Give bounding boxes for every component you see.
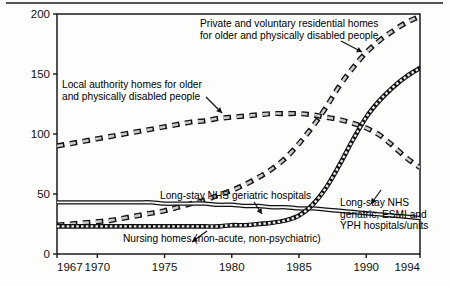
annotation-long-stay-geriatric: Long-stay NHS geriatric hospitals bbox=[160, 190, 311, 202]
annotation-line: Long-stay NHS bbox=[340, 197, 428, 209]
x-tick-label: 1985 bbox=[286, 261, 312, 273]
x-tick-label: 1970 bbox=[85, 261, 111, 273]
x-tick-label: 1980 bbox=[219, 261, 245, 273]
annotation-line: Long-stay NHS geriatric hospitals bbox=[160, 190, 311, 202]
annotation-private-voluntary: Private and voluntary residential homes … bbox=[200, 18, 378, 41]
annotation-line: Local authority homes for older bbox=[62, 79, 202, 91]
annotation-local-authority: Local authority homes for older and phys… bbox=[62, 79, 202, 102]
annotation-long-stay-esmi: Long-stay NHS geriatric, ESMI and YPH ho… bbox=[340, 197, 428, 232]
annotation-line: YPH hospitals/units bbox=[340, 220, 428, 232]
y-tick-label: 50 bbox=[37, 188, 50, 200]
annotation-line: Nursing homes (non-acute, non-psychiatri… bbox=[123, 233, 321, 245]
annotation-line: geriatric, ESMI and bbox=[340, 209, 428, 221]
y-tick-label: 200 bbox=[31, 8, 50, 20]
annotation-line: for older and physically disabled people bbox=[200, 30, 378, 42]
annotation-line: and physically disabled people bbox=[62, 91, 202, 103]
x-tick-label: 1975 bbox=[152, 261, 178, 273]
x-tick-label: 1994 bbox=[394, 261, 420, 273]
annotation-nursing-homes: Nursing homes (non-acute, non-psychiatri… bbox=[123, 233, 321, 245]
x-tick-label: 1967 bbox=[57, 261, 83, 273]
x-tick-label: 1990 bbox=[353, 261, 379, 273]
y-tick-label: 0 bbox=[44, 248, 50, 260]
y-tick-label: 100 bbox=[31, 128, 50, 140]
y-tick-label: 150 bbox=[31, 68, 50, 80]
chart-figure: Numbers of beds (thousands) 050100150200… bbox=[0, 0, 449, 286]
annotation-line: Private and voluntary residential homes bbox=[200, 18, 378, 30]
